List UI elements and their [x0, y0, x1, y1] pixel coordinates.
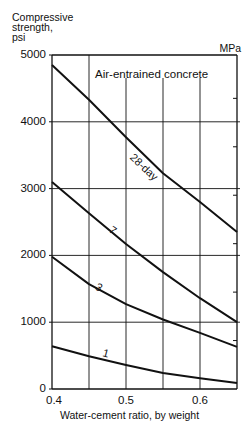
curve-1-day [52, 346, 237, 383]
curve-3-day [52, 257, 237, 347]
curve-7-day [52, 182, 237, 322]
chart-title: Air-entrained concrete [95, 68, 208, 80]
plot-area [0, 0, 249, 437]
curve-28-day [52, 65, 237, 232]
